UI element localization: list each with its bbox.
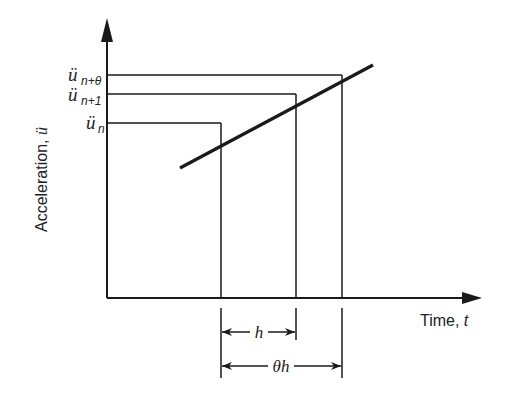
x-axis-arrow-icon bbox=[462, 292, 482, 304]
x-axis-title-text: Time, bbox=[420, 312, 464, 329]
acceleration-line bbox=[180, 65, 373, 168]
label-u-n1-sub: n+1 bbox=[81, 94, 101, 108]
y-axis-title: Acceleration, ü bbox=[33, 127, 50, 232]
x-axis-title: Time, t bbox=[420, 312, 469, 329]
label-u-n-theta-sub: n+θ bbox=[81, 74, 102, 88]
y-axis bbox=[101, 18, 113, 298]
y-axis-arrow-icon bbox=[101, 18, 113, 42]
label-u-n1-base: ü bbox=[68, 84, 78, 105]
x-axis bbox=[107, 292, 482, 304]
dimension-h: h bbox=[222, 323, 295, 342]
label-u-n: ü n bbox=[86, 112, 105, 136]
acceleration-diagram: h θh ü n+θ ü n+1 ü n Acceleration, ü Tim… bbox=[0, 0, 506, 397]
dimension-h-label: h bbox=[255, 323, 264, 342]
label-u-n-base: ü bbox=[86, 112, 96, 133]
label-u-n-sub: n bbox=[98, 122, 105, 136]
dimension-theta-h-label: θh bbox=[273, 357, 290, 376]
y-axis-title-text: Acceleration, bbox=[33, 135, 50, 232]
label-u-n-theta-base: ü bbox=[68, 64, 78, 85]
dimension-theta-h: θh bbox=[222, 357, 341, 376]
x-axis-title-symbol: t bbox=[464, 312, 469, 329]
y-axis-title-symbol: ü bbox=[33, 127, 50, 135]
